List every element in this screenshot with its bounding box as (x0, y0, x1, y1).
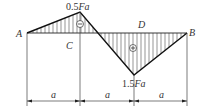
dimension-label-3: a (159, 89, 164, 100)
label-D: D (137, 19, 146, 30)
moment-diagram: A C D B 0.5Fa 1.5Fa a a a (0, 0, 204, 111)
label-C: C (66, 40, 73, 51)
value-peak-negative: 0.5Fa (66, 1, 90, 12)
minus-sign-icon (77, 21, 84, 28)
value-peak-positive: 1.5Fa (122, 78, 146, 89)
dimension-label-1: a (51, 89, 56, 100)
label-A: A (15, 28, 23, 39)
plus-sign-icon (130, 45, 137, 52)
label-B: B (189, 27, 195, 38)
dimension-label-2: a (105, 89, 110, 100)
